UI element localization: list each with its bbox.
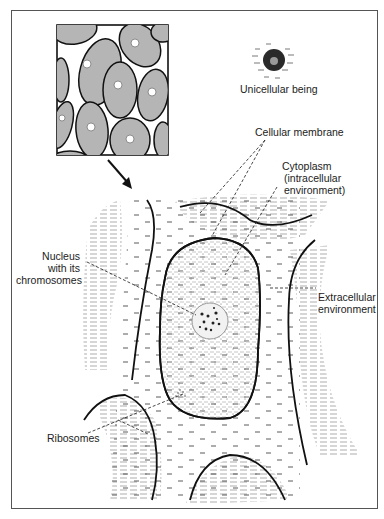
label-ribosomes: Ribosomes — [47, 432, 100, 444]
zoom-arrow — [108, 160, 132, 189]
label-cytoplasm-line3: environment) — [284, 184, 345, 196]
label-extracellular-line2: environment — [318, 303, 376, 315]
label-nucleus: Nucleus — [16, 250, 80, 262]
tissue-inset — [46, 12, 175, 163]
label-cytoplasm-line2: (intracellular — [284, 172, 341, 184]
label-extracellular: Extracellular — [318, 291, 376, 303]
unicellular-being-icon — [252, 44, 294, 78]
label-nucleus-line2: with its — [16, 262, 80, 274]
label-nucleus-line3: chromosomes — [16, 274, 80, 286]
label-unicellular-being: Unicellular being — [240, 83, 318, 95]
label-cytoplasm: Cytoplasm — [282, 160, 332, 172]
nucleus — [192, 303, 228, 339]
label-cellular-membrane: Cellular membrane — [255, 126, 344, 138]
